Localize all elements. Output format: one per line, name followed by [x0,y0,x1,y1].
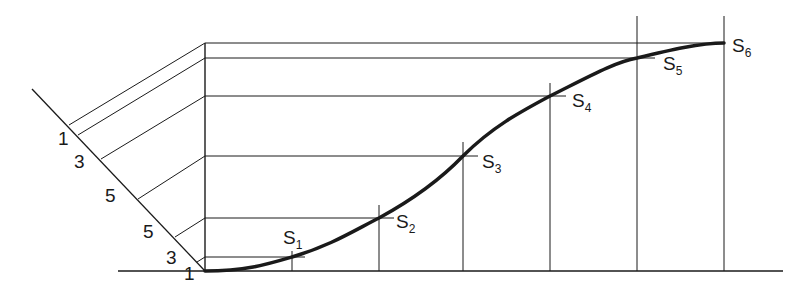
scale-label: 5 [105,186,116,205]
scale-label: 3 [166,248,177,267]
diagram-lines [0,0,805,297]
diagonal-scale [32,89,205,271]
scale-label: 1 [58,129,69,148]
point-label-s6: S6 [732,36,751,59]
point-label-s4: S4 [572,91,591,114]
point-label-s1: S1 [283,228,302,251]
point-label-s3: S3 [482,152,501,175]
scale-label: 3 [74,152,85,171]
displacement-diagram: 1 3 5 5 3 1 S1 S2 S3 S4 S5 S6 [0,0,805,297]
scale-label: 5 [143,222,154,241]
point-label-s2: S2 [396,212,415,235]
scale-label: 1 [184,264,195,283]
point-label-s5: S5 [663,54,682,77]
